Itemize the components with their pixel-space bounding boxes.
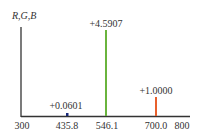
x-tick-700: 700.0	[145, 121, 168, 131]
y-axis-label: R,G,B	[12, 11, 36, 21]
bar-red	[155, 97, 157, 116]
bar-green	[105, 30, 107, 116]
value-label-green: +4.5907	[89, 19, 122, 29]
value-label-blue: +0.0601	[49, 101, 82, 111]
x-tick-800: 800	[175, 121, 190, 131]
x-tick-300: 300	[15, 121, 30, 131]
spectral-chart: R,G,B +4.5907 +1.0000 +0.0601 300 435.8 …	[0, 0, 203, 137]
value-label-red: +1.0000	[139, 86, 172, 96]
bar-blue	[66, 113, 69, 116]
x-tick-546: 546.1	[96, 121, 119, 131]
x-tick-435: 435.8	[56, 121, 79, 131]
